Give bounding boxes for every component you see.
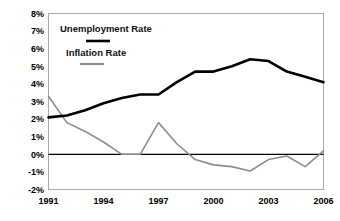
x-axis-tick-label: 2000 (203, 196, 223, 206)
legend-label-unemployment: Unemployment Rate (60, 23, 152, 34)
y-axis-tick-label: 6% (31, 44, 44, 54)
chart-container: 8%7%6%5%4%3%2%1%0%-1%-2% 199119941997200… (0, 0, 340, 221)
y-axis-tick-label: 2% (31, 114, 44, 124)
x-axis-tick-label: 1994 (93, 196, 113, 206)
y-axis-tick-label: 3% (31, 97, 44, 107)
line-chart: 8%7%6%5%4%3%2%1%0%-1%-2% 199119941997200… (0, 0, 340, 221)
x-axis-tick-label: 2006 (313, 196, 333, 206)
y-axis-tick-label: -1% (28, 167, 44, 177)
y-axis-tick-label: -2% (28, 185, 44, 195)
y-axis-tick-label: 4% (31, 79, 44, 89)
y-axis-tick-label: 1% (31, 132, 44, 142)
y-axis-tick-label: 8% (31, 9, 44, 19)
legend-label-inflation: Inflation Rate (66, 47, 126, 58)
x-axis-tick-label: 1991 (38, 196, 58, 206)
x-axis-tick-label: 1997 (148, 196, 168, 206)
y-axis-tick-label: 0% (31, 150, 44, 160)
y-axis-tick-label: 5% (31, 62, 44, 72)
x-axis-tick-label: 2003 (258, 196, 278, 206)
y-axis-tick-label: 7% (31, 26, 44, 36)
